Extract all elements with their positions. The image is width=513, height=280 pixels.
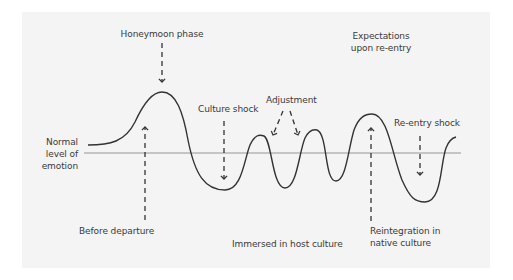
adjustment-arrow-right: [290, 111, 298, 135]
adjustment-label: Adjustment: [266, 94, 317, 106]
expectations-label: Expectations upon re-entry: [340, 30, 422, 54]
adjustment-arrow-left: [273, 111, 283, 135]
before-departure-label: Before departure: [79, 225, 154, 237]
baseline-label-line1: Normal: [40, 136, 78, 148]
baseline-label: Normal level of emotion: [40, 136, 78, 172]
culture-shock-label: Culture shock: [198, 103, 258, 115]
reintegration-line1: Reintegration in: [370, 225, 440, 237]
reintegration-line2: native culture: [370, 237, 440, 249]
immersed-label: Immersed in host culture: [232, 238, 343, 250]
baseline-label-line2: level of: [40, 148, 78, 160]
baseline-label-line3: emotion: [40, 160, 78, 172]
honeymoon-label: Honeymoon phase: [112, 28, 212, 40]
expectations-line1: Expectations: [340, 30, 422, 42]
emotion-curve: [88, 92, 456, 202]
reintegration-label: Reintegration in native culture: [370, 225, 440, 249]
expectations-line2: upon re-entry: [340, 42, 422, 54]
reentry-shock-label: Re-entry shock: [394, 117, 460, 129]
